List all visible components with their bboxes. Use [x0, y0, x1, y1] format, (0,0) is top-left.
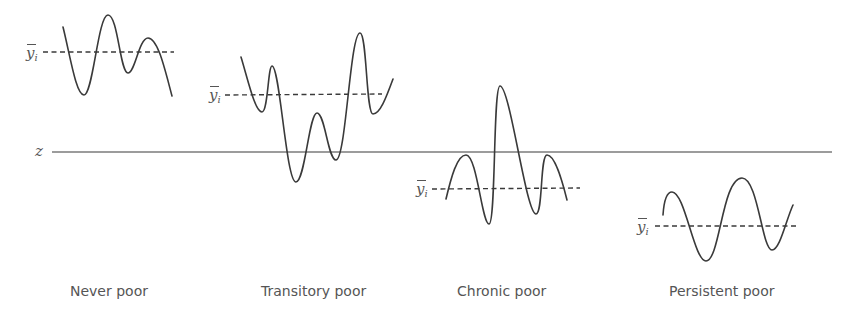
caption-transitory-poor: Transitory poor [261, 283, 366, 299]
mean-label-never-poor: yi [26, 46, 38, 63]
mean-label-persistent-poor: yi [637, 220, 649, 237]
panel-persistent-poor [655, 178, 797, 261]
caption-never-poor: Never poor [70, 283, 148, 299]
mean-line-chronic-poor [432, 188, 580, 189]
panel-chronic-poor [432, 86, 580, 224]
panel-never-poor [43, 15, 174, 96]
mean-label-transitory-poor: yi [209, 88, 221, 105]
mean-label-chronic-poor: yi [416, 182, 428, 199]
income-curve-transitory-poor [241, 33, 393, 182]
caption-chronic-poor: Chronic poor [457, 283, 546, 299]
caption-persistent-poor: Persistent poor [669, 283, 774, 299]
panel-transitory-poor [225, 33, 393, 182]
income-curve-chronic-poor [446, 86, 567, 224]
income-curve-never-poor [63, 15, 172, 96]
poverty-types-diagram [0, 0, 848, 319]
income-curve-persistent-poor [663, 178, 793, 261]
poverty-line-label: z [35, 142, 43, 160]
mean-line-transitory-poor [225, 94, 382, 95]
